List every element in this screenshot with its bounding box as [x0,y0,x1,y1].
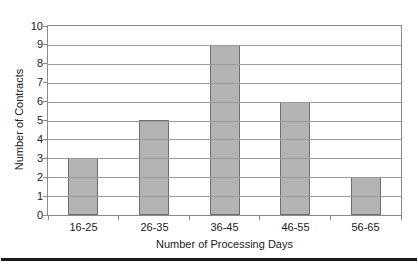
gridline-6 [48,102,401,103]
y-tick-mark-9 [43,44,47,45]
gridline-5 [48,121,401,122]
gridline-8 [48,64,401,65]
y-tick-mark-5 [43,120,47,121]
y-tick-mark-8 [43,63,47,64]
x-tick-mark-1 [118,216,119,220]
gridline-7 [48,83,401,84]
y-tick-label-6: 6 [17,96,43,107]
y-tick-label-5: 5 [17,115,43,126]
y-tick-label-10: 10 [17,21,43,32]
gridline-9 [48,45,401,46]
y-tick-mark-0 [43,215,47,216]
bar-16-25 [68,158,98,215]
gridline-4 [48,139,401,140]
bar-36-45 [210,45,240,215]
separator-rule [1,258,417,261]
y-tick-mark-1 [43,196,47,197]
gridline-2 [48,177,401,178]
x-axis-title: Number of Processing Days [47,238,402,250]
y-tick-label-0: 0 [17,210,43,221]
y-tick-mark-10 [43,26,47,27]
bar-chart-figure: Number of Contracts 012345678910 16-2526… [0,0,418,272]
x-tick-label-56-65: 56-65 [330,221,401,233]
y-tick-label-7: 7 [17,77,43,88]
bar-26-35 [139,120,169,215]
x-tick-mark-4 [330,216,331,220]
y-tick-label-4: 4 [17,134,43,145]
x-tick-label-26-35: 26-35 [119,221,190,233]
gridline-1 [48,196,401,197]
x-tick-mark-3 [259,216,260,220]
gridline-3 [48,158,401,159]
y-tick-mark-2 [43,177,47,178]
y-tick-mark-3 [43,158,47,159]
y-tick-label-8: 8 [17,58,43,69]
plot-area [47,25,402,216]
y-tick-label-3: 3 [17,153,43,164]
x-tick-label-16-25: 16-25 [48,221,119,233]
y-tick-mark-6 [43,101,47,102]
y-tick-mark-7 [43,82,47,83]
x-tick-label-36-45: 36-45 [189,221,260,233]
y-tick-label-9: 9 [17,39,43,50]
y-tick-mark-4 [43,139,47,140]
y-tick-label-1: 1 [17,191,43,202]
x-tick-label-46-55: 46-55 [260,221,331,233]
x-tick-mark-0 [48,216,49,220]
x-tick-mark-5 [401,216,402,220]
y-tick-label-2: 2 [17,172,43,183]
x-tick-mark-2 [189,216,190,220]
